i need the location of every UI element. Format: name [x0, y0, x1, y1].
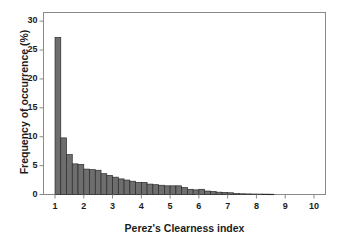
- histogram-bar: [256, 194, 262, 195]
- y-tick-label: 20: [14, 73, 38, 83]
- histogram-bar: [222, 192, 228, 194]
- histogram-bar: [101, 174, 107, 195]
- histogram-bar: [61, 138, 67, 195]
- x-tick-label: 5: [156, 201, 184, 211]
- histogram-bar: [170, 186, 176, 195]
- histogram-bar: [130, 181, 136, 194]
- histogram-bar: [233, 194, 239, 195]
- histogram-bar: [72, 164, 78, 195]
- histogram-bar: [107, 175, 113, 194]
- y-tick-label: 15: [14, 102, 38, 112]
- histogram-bar: [205, 191, 211, 194]
- histogram-bar: [118, 179, 124, 195]
- histogram-bar: [95, 170, 101, 194]
- histogram-bar: [84, 169, 90, 194]
- histogram-bar: [136, 182, 142, 194]
- histogram-bar: [124, 180, 130, 194]
- histogram-bar: [90, 170, 96, 195]
- x-axis-label: Perez's Clearness index: [43, 222, 326, 234]
- histogram-bar: [187, 189, 193, 194]
- plot-border: [44, 13, 326, 195]
- histogram-bar: [147, 184, 153, 194]
- histogram-bar: [228, 193, 234, 195]
- histogram-bar: [239, 194, 245, 195]
- histogram-bar: [245, 194, 251, 195]
- histogram-bar: [113, 177, 119, 194]
- x-tick-label: 3: [99, 201, 127, 211]
- x-tick-label: 4: [127, 201, 155, 211]
- histogram-bar: [268, 194, 274, 195]
- histogram-bar: [216, 192, 222, 194]
- histogram-bar: [141, 182, 147, 194]
- histogram-bar: [182, 188, 188, 195]
- plot-frame: [44, 13, 326, 195]
- x-tick-label: 7: [214, 201, 242, 211]
- y-tick-label: 10: [14, 131, 38, 141]
- y-tick-label: 30: [14, 15, 38, 25]
- y-tick-label: 5: [14, 160, 38, 170]
- histogram-bar: [55, 37, 61, 194]
- histogram-bar: [159, 185, 165, 194]
- histogram-bar: [193, 190, 199, 195]
- x-tick-label: 2: [70, 201, 98, 211]
- histogram-bar: [67, 155, 73, 195]
- histogram-bar: [176, 186, 182, 195]
- bars-group: [55, 37, 274, 194]
- histogram-bar: [78, 164, 84, 194]
- chart-figure: Frequency of occurrence (%) Perez's Clea…: [0, 0, 337, 242]
- y-tick-label: 0: [14, 189, 38, 199]
- histogram-bar: [153, 185, 159, 195]
- x-tick-label: 10: [300, 201, 328, 211]
- x-tick-label: 1: [41, 201, 69, 211]
- histogram-bar: [262, 194, 268, 195]
- x-tick-label: 6: [185, 201, 213, 211]
- x-tick-label: 9: [271, 201, 299, 211]
- figure-caption-fragment: [43, 237, 333, 242]
- histogram-bar: [210, 192, 216, 195]
- histogram-bar: [199, 189, 205, 194]
- histogram-bar: [164, 186, 170, 195]
- x-tick-label: 8: [242, 201, 270, 211]
- histogram-bar: [251, 194, 257, 195]
- y-tick-label: 25: [14, 44, 38, 54]
